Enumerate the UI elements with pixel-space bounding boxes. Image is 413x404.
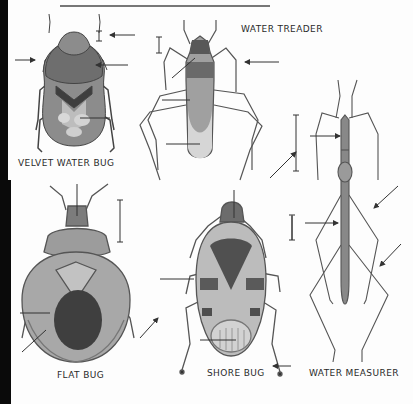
- water-measurer: [310, 80, 388, 362]
- water-treader: [140, 20, 262, 180]
- label-water-measurer: WATER MEASURER: [309, 368, 399, 378]
- shore-bug: [180, 202, 282, 376]
- label-shore-bug: SHORE BUG: [207, 368, 265, 378]
- water-measurer-pointers: [270, 115, 401, 266]
- flat-bug: [22, 184, 134, 362]
- velvet-water-bug: [36, 14, 114, 152]
- label-velvet-water-bug: VELVET WATER BUG: [18, 158, 114, 168]
- insect-illustrations: [0, 0, 413, 404]
- label-water-treader: WATER TREADER: [241, 24, 323, 34]
- illustration-plate: VELVET WATER BUG WATER TREADER FLAT BUG …: [0, 0, 413, 404]
- label-flat-bug: FLAT BUG: [57, 370, 104, 380]
